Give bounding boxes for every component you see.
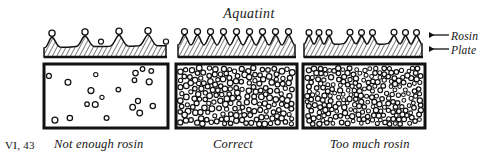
rosin-grain: [182, 74, 187, 79]
rosin-grain: [306, 30, 312, 36]
rosin-grain: [209, 106, 215, 112]
rosin-grain: [322, 78, 326, 82]
rosin-grain: [417, 98, 422, 103]
rosin-grain: [49, 30, 55, 36]
rosin-grain: [393, 122, 397, 126]
rosin-grain: [235, 90, 241, 96]
rosin-grain: [322, 113, 326, 117]
rosin-grain: [362, 78, 366, 82]
rosin-grain: [349, 93, 353, 97]
rosin-grain: [346, 88, 350, 92]
rosin-grain: [185, 103, 189, 107]
rosin-grain: [412, 105, 417, 110]
rosin-grain: [258, 73, 262, 77]
rosin-grain: [366, 120, 370, 124]
rosin-grain: [323, 67, 327, 71]
rosin-grain: [258, 107, 263, 112]
rosin-grain: [275, 88, 280, 93]
rosin-grain: [329, 75, 334, 80]
rosin-grain: [378, 71, 382, 75]
rosin-grain: [373, 108, 378, 113]
rosin-grain: [218, 72, 222, 76]
rosin-grain: [339, 120, 344, 125]
rosin-grain: [280, 96, 285, 101]
rosin-grain: [223, 101, 229, 107]
rosin-grain: [356, 112, 361, 117]
rosin-grain: [263, 86, 268, 91]
rosin-grain: [183, 68, 187, 72]
rosin-grain: [417, 112, 422, 117]
rosin-grain: [132, 78, 137, 83]
rosin-grain: [201, 81, 206, 86]
rosin-grain: [245, 94, 250, 99]
rosin-grain: [381, 113, 385, 117]
rosin-grain: [391, 29, 397, 35]
rosin-grain: [94, 72, 98, 76]
rosin-grain: [353, 109, 357, 113]
rosin-grain: [227, 75, 232, 80]
rosin-grain: [418, 92, 422, 96]
rosin-grain: [370, 30, 376, 36]
rosin-grain: [266, 68, 271, 73]
rosin-grain: [386, 101, 391, 106]
rosin-grain: [192, 96, 197, 101]
rosin-grain: [324, 121, 329, 126]
rosin-grain: [378, 88, 383, 93]
rosin-grain: [394, 70, 399, 75]
rosin-grain: [401, 80, 406, 85]
rosin-grain: [140, 67, 145, 72]
rosin-grain: [387, 122, 391, 126]
rosin-grain: [240, 87, 244, 91]
rosin-grain: [409, 96, 413, 100]
rosin-grain: [276, 108, 281, 113]
rosin-grain: [390, 92, 394, 96]
rosin-grain: [289, 106, 294, 111]
rosin-grain: [253, 72, 258, 77]
rosin-grain: [223, 122, 227, 126]
rosin-grain: [254, 117, 259, 122]
rosin-grain: [247, 107, 251, 111]
rosin-grain: [205, 117, 209, 121]
rosin-grain: [403, 88, 407, 92]
rosin-grain: [342, 98, 346, 102]
rosin-grain: [335, 109, 339, 113]
rosin-grain: [405, 73, 410, 78]
rosin-grain: [130, 104, 136, 110]
rosin-grain: [202, 105, 207, 110]
rosin-grain: [149, 69, 154, 74]
rosin-grain: [315, 96, 320, 101]
panel-cross-section-even: [178, 29, 296, 57]
rosin-grain: [116, 28, 122, 34]
rosin-grain: [415, 66, 420, 71]
rosin-grain: [179, 104, 184, 109]
rosin-grain: [52, 117, 58, 123]
rosin-grain: [338, 114, 342, 118]
rosin-grain: [178, 98, 184, 104]
rosin-grain: [319, 71, 324, 76]
rosin-grain: [104, 116, 109, 121]
rosin-grain: [365, 94, 369, 98]
rosin-grain: [381, 84, 386, 89]
rosin-grain: [333, 91, 337, 95]
rosin-grain: [234, 118, 239, 123]
rosin-grain: [370, 75, 374, 79]
rosin-grain: [326, 83, 330, 87]
rosin-grain: [198, 116, 203, 121]
rosin-grain: [272, 66, 277, 71]
rosin-grain: [287, 75, 292, 80]
rosin-grain: [333, 114, 338, 119]
rosin-grain: [316, 30, 322, 36]
rosin-grain: [224, 96, 230, 102]
rosin-grain: [354, 92, 358, 96]
rosin-grain: [326, 30, 332, 36]
rosin-grain: [274, 72, 279, 77]
rosin-grain: [178, 85, 183, 90]
rosin-grain: [137, 110, 143, 116]
rosin-grain: [199, 76, 203, 80]
rosin-grain: [284, 98, 290, 104]
rosin-grain: [383, 105, 387, 109]
rosin-grain: [323, 107, 328, 112]
rosin-grain: [333, 104, 338, 109]
rosin-grain: [266, 74, 272, 80]
rosin-grain: [382, 66, 387, 71]
